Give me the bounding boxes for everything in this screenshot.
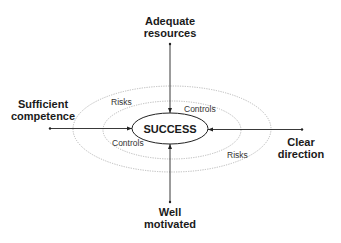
risks-label-upper-left: Risks bbox=[111, 98, 132, 107]
factor-clear-direction: Clear direction bbox=[261, 136, 341, 160]
factor-right-line1: Clear bbox=[261, 136, 341, 148]
factor-right-line2: direction bbox=[261, 148, 341, 160]
factor-left-line1: Sufficient bbox=[3, 98, 83, 110]
factor-sufficient-competence: Sufficient competence bbox=[3, 98, 83, 122]
factor-adequate-resources: Adequate resources bbox=[130, 15, 210, 39]
controls-label-lower-left: Controls bbox=[112, 139, 144, 148]
factor-bottom-line2: motivated bbox=[130, 218, 210, 230]
factor-bottom-line1: Well bbox=[130, 206, 210, 218]
arrow-origin-dot-top bbox=[169, 43, 171, 45]
arrow-origin-dot-right bbox=[301, 128, 303, 130]
risks-label-lower-right: Risks bbox=[227, 151, 248, 160]
arrow-origin-dot-left bbox=[49, 127, 51, 129]
factor-well-motivated: Well motivated bbox=[130, 206, 210, 230]
success-label: SUCCESS bbox=[132, 123, 208, 135]
arrow-origin-dot-bottom bbox=[169, 201, 171, 203]
controls-label-upper-right: Controls bbox=[184, 105, 216, 114]
factor-top-line1: Adequate bbox=[130, 15, 210, 27]
factor-top-line2: resources bbox=[130, 27, 210, 39]
factor-left-line2: competence bbox=[3, 110, 83, 122]
